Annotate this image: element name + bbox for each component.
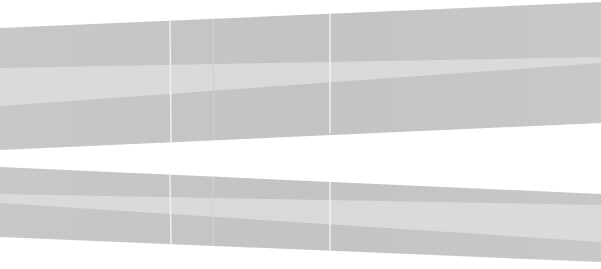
panel-seam xyxy=(170,20,171,142)
panel-seam xyxy=(170,174,171,244)
product-photo-glass-panels xyxy=(0,0,601,269)
